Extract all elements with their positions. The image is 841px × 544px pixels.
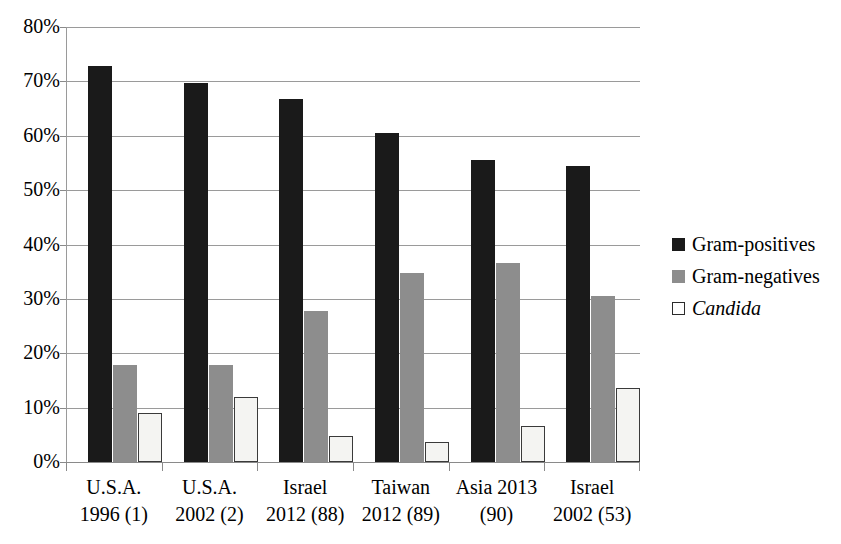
y-tick-label: 80% — [2, 16, 60, 36]
x-axis-label-line1: Asia 2013 — [456, 476, 538, 498]
x-axis-label-line1: U.S.A. — [86, 476, 141, 498]
x-tick-mark — [66, 462, 67, 471]
bar — [471, 160, 495, 462]
bar — [566, 166, 590, 462]
legend-label: Gram-negatives — [692, 266, 820, 286]
bar-group — [449, 27, 545, 462]
x-axis-label: U.S.A.2002 (2) — [162, 474, 258, 528]
bar — [591, 296, 615, 462]
legend-item[interactable]: Candida — [672, 292, 837, 324]
x-axis-label-line2: 2002 (2) — [162, 501, 258, 528]
legend-swatch-icon — [672, 238, 685, 251]
x-axis-label-line2: 1996 (1) — [66, 501, 162, 528]
legend-swatch-icon — [672, 302, 685, 315]
bar — [425, 442, 449, 462]
legend-item[interactable]: Gram-negatives — [672, 260, 837, 292]
x-axis-label-line2: (90) — [449, 501, 545, 528]
legend-swatch-icon — [672, 270, 685, 283]
x-axis-label: Israel2002 (53) — [544, 474, 640, 528]
legend-label: Candida — [692, 298, 761, 318]
y-tick-label: 20% — [2, 342, 60, 362]
x-axis-label-line1: U.S.A. — [182, 476, 237, 498]
x-axis-label: Taiwan2012 (89) — [353, 474, 449, 528]
x-axis-label: Asia 2013(90) — [449, 474, 545, 528]
bar-group — [257, 27, 353, 462]
y-tick-label: 70% — [2, 70, 60, 90]
x-axis-label: Israel2012 (88) — [257, 474, 353, 528]
bar — [616, 388, 640, 462]
bar — [113, 365, 137, 462]
y-tick-label: 60% — [2, 125, 60, 145]
x-tick-mark — [353, 462, 354, 471]
x-tick-mark — [449, 462, 450, 471]
bar — [304, 311, 328, 462]
x-axis-label-line2: 2002 (53) — [544, 501, 640, 528]
bar — [521, 426, 545, 462]
y-axis-labels: 80%70%60%50%40%30%20%10%0% — [0, 27, 60, 462]
bar-group — [353, 27, 449, 462]
x-axis-label: U.S.A.1996 (1) — [66, 474, 162, 528]
bar — [184, 83, 208, 462]
bar — [138, 413, 162, 462]
y-tick-label: 40% — [2, 234, 60, 254]
bar — [400, 273, 424, 462]
x-tick-mark — [257, 462, 258, 471]
x-tick-mark — [544, 462, 545, 471]
x-tick-mark — [162, 462, 163, 471]
legend-label: Gram-positives — [692, 234, 815, 254]
x-axis-label-line2: 2012 (88) — [257, 501, 353, 528]
legend: Gram-positivesGram-negativesCandida — [672, 228, 837, 324]
bar — [375, 133, 399, 463]
bar-group — [66, 27, 162, 462]
plot-area — [66, 27, 640, 462]
x-axis-labels: U.S.A.1996 (1)U.S.A.2002 (2)Israel2012 (… — [66, 474, 640, 538]
bar — [329, 436, 353, 462]
x-axis-label-line2: 2012 (89) — [353, 501, 449, 528]
bar-group — [162, 27, 258, 462]
y-tick-label: 0% — [2, 451, 60, 471]
y-tick-label: 50% — [2, 179, 60, 199]
x-axis-label-line1: Israel — [570, 476, 614, 498]
bar-chart: 80%70%60%50%40%30%20%10%0% U.S.A.1996 (1… — [0, 0, 841, 544]
bar — [279, 99, 303, 462]
x-axis-label-line1: Israel — [283, 476, 327, 498]
bar — [88, 66, 112, 462]
x-axis-ticks — [66, 462, 640, 471]
y-tick-label: 10% — [2, 397, 60, 417]
bar-group — [544, 27, 640, 462]
y-tick-label: 30% — [2, 288, 60, 308]
x-tick-mark — [639, 462, 640, 471]
bar — [234, 397, 258, 462]
bar — [209, 365, 233, 462]
x-axis-label-line1: Taiwan — [372, 476, 431, 498]
bar — [496, 263, 520, 462]
legend-item[interactable]: Gram-positives — [672, 228, 837, 260]
